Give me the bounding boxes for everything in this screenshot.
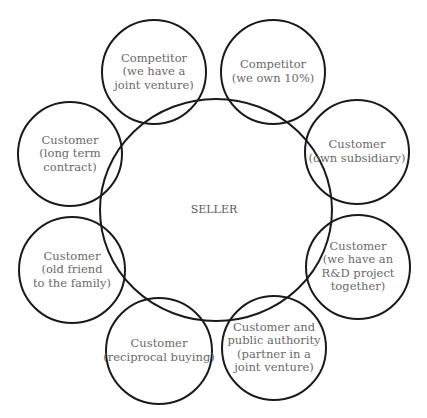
label-line: together)	[331, 279, 386, 293]
label-line: R&D project	[322, 266, 395, 280]
label-line: Customer	[42, 133, 99, 147]
label-line: public authority	[227, 333, 321, 347]
label-line: Competitor	[240, 57, 307, 71]
label-line: Customer	[131, 336, 188, 350]
label-line: (we have a	[123, 64, 186, 78]
label-line: Customer and	[233, 320, 316, 334]
label-line: (own subsidiary)	[309, 151, 406, 165]
label-line: contract)	[43, 160, 96, 174]
customer-rd-project-label: Customer(we have anR&D projecttogether)	[322, 239, 395, 294]
label-line: Customer	[330, 239, 387, 253]
seller-relationship-diagram: SELLERCompetitor(we have ajoint venture)…	[0, 0, 427, 418]
label-line: Customer	[329, 137, 386, 151]
label-line: (reciprocal buying)	[103, 350, 215, 364]
customer-long-term-contract-label: Customer(long termcontract)	[39, 133, 100, 174]
label-line: (we own 10%)	[232, 71, 315, 85]
competitor-own-10-label: Competitor(we own 10%)	[232, 57, 315, 85]
customer-own-subsidiary-label: Customer(own subsidiary)	[309, 137, 406, 165]
label-line: joint venture)	[112, 78, 193, 92]
seller-label: SELLER	[191, 203, 238, 216]
label-line: Customer	[44, 249, 101, 263]
customer-reciprocal-buying-label: Customer(reciprocal buying)	[103, 336, 215, 364]
customer-public-authority-label: Customer andpublic authority(partner in …	[227, 320, 321, 375]
label-line: joint venture)	[232, 360, 313, 374]
label-line: Competitor	[121, 51, 188, 65]
label-line: (old friend	[41, 262, 103, 276]
label-line: (long term	[39, 146, 100, 160]
label-line: (partner in a	[237, 347, 311, 361]
competitor-joint-venture-label: Competitor(we have ajoint venture)	[112, 51, 193, 92]
label-line: (we have an	[323, 252, 394, 266]
label-line: to the family)	[33, 276, 111, 290]
customer-old-friend-label: Customer(old friendto the family)	[33, 249, 111, 290]
